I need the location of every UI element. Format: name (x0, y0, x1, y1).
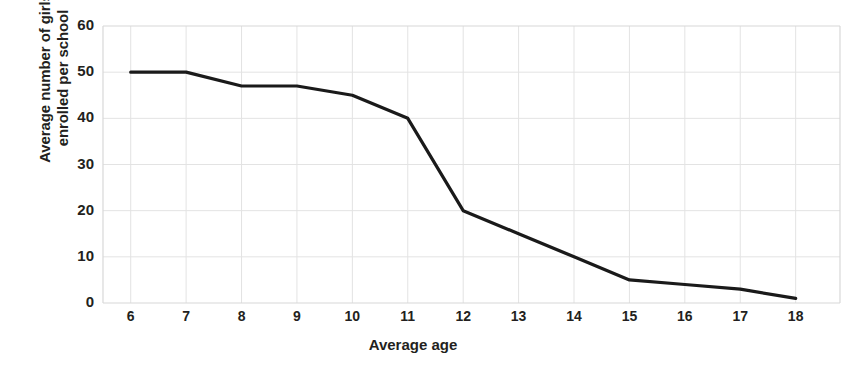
x-axis-label: Average age (0, 336, 856, 353)
x-tick-label: 14 (554, 308, 594, 324)
x-tick-label: 18 (776, 308, 816, 324)
x-tick-label: 17 (720, 308, 760, 324)
x-tick-label: 16 (665, 308, 705, 324)
x-tick-label: 15 (609, 308, 649, 324)
x-axis-label-text: Average age (369, 336, 458, 353)
x-tick-label: 10 (332, 308, 372, 324)
x-tick-label: 9 (277, 308, 317, 324)
x-tick-label: 7 (166, 308, 206, 324)
x-axis-tick-labels: 6789101112131415161718 (0, 308, 856, 332)
x-tick-label: 13 (499, 308, 539, 324)
x-tick-label: 12 (443, 308, 483, 324)
x-tick-label: 6 (111, 308, 151, 324)
chart-figure: Average number of girls enrolled per sch… (0, 0, 856, 375)
x-tick-label: 11 (388, 308, 428, 324)
grid-lines (103, 26, 840, 303)
x-tick-label: 8 (222, 308, 262, 324)
